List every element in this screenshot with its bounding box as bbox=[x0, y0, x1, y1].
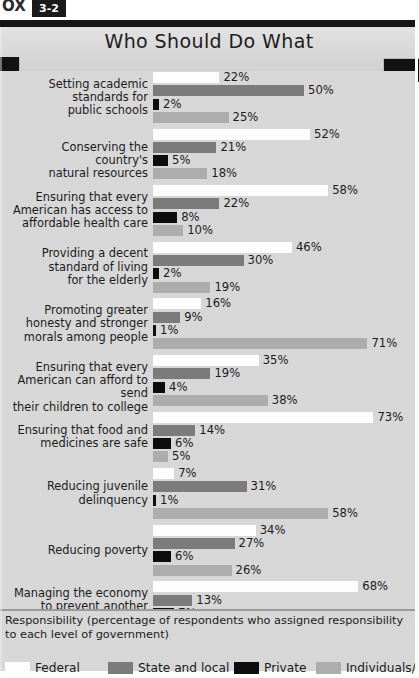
bar-row: 18% bbox=[153, 167, 418, 180]
bar-value-label: 73% bbox=[377, 410, 403, 424]
bar-value-label: 6% bbox=[175, 549, 193, 563]
bar-private bbox=[153, 551, 171, 562]
footer-divider bbox=[0, 609, 418, 611]
bar-state bbox=[153, 368, 210, 379]
bar-row: 7% bbox=[153, 467, 418, 480]
category-label-line: American has access to bbox=[6, 204, 148, 217]
category-label-line: honesty and stronger bbox=[6, 317, 148, 330]
category-label-line: morals among people bbox=[6, 331, 148, 344]
bar-row: 5% bbox=[153, 450, 418, 463]
category-label-line: Providing a decent bbox=[6, 247, 148, 260]
legend-swatch-private bbox=[234, 662, 259, 674]
legend-label: Private bbox=[264, 659, 307, 677]
chart-category-group: Reducing juveniledelinquency7%31%1%58% bbox=[0, 467, 418, 524]
bar-individuals bbox=[153, 282, 210, 293]
bar-row: 68% bbox=[153, 580, 418, 593]
bar-value-label: 27% bbox=[239, 536, 265, 550]
bar-value-label: 58% bbox=[332, 183, 358, 197]
bar-value-label: 52% bbox=[314, 127, 340, 141]
bar-federal bbox=[153, 185, 328, 196]
legend-label: State and local bbox=[138, 659, 229, 677]
bar-value-label: 6% bbox=[175, 436, 193, 450]
bar-value-label: 38% bbox=[272, 393, 298, 407]
bar-row: 10% bbox=[153, 224, 418, 237]
bar-private bbox=[153, 438, 171, 449]
bar-state bbox=[153, 312, 180, 323]
page-title: Who Should Do What bbox=[0, 30, 418, 52]
bar-row: 71% bbox=[153, 337, 418, 350]
axis-caption: Responsibility (percentage of respondent… bbox=[5, 614, 410, 642]
bar-row: 2% bbox=[153, 98, 418, 111]
bar-federal bbox=[153, 242, 292, 253]
bar-value-label: 2% bbox=[163, 97, 181, 111]
bar-individuals bbox=[153, 338, 367, 349]
bar-row: 30% bbox=[153, 254, 418, 267]
box-number-badge: 3-2 bbox=[32, 0, 66, 17]
bar-row: 4% bbox=[153, 381, 418, 394]
category-bars: 73%14%6%5% bbox=[153, 411, 418, 464]
category-label-line: Reducing poverty bbox=[6, 544, 148, 557]
category-bars: 7%31%1%58% bbox=[153, 467, 418, 520]
bar-row: 16% bbox=[153, 297, 418, 310]
category-bars: 22%50%2%25% bbox=[153, 71, 418, 124]
bar-row: 38% bbox=[153, 394, 418, 407]
bar-row: 6% bbox=[153, 550, 418, 563]
bar-state bbox=[153, 198, 219, 209]
bar-value-label: 21% bbox=[220, 140, 246, 154]
legend-swatch-state bbox=[108, 662, 133, 674]
category-label-line: standard of living bbox=[6, 261, 148, 274]
bar-row: 8% bbox=[153, 211, 418, 224]
category-label-line: public schools bbox=[6, 104, 148, 117]
bar-row: 19% bbox=[153, 281, 418, 294]
bar-row: 26% bbox=[153, 564, 418, 577]
bar-value-label: 58% bbox=[332, 506, 358, 520]
bar-value-label: 19% bbox=[214, 366, 240, 380]
bar-row: 25% bbox=[153, 111, 418, 124]
bar-federal bbox=[153, 72, 219, 83]
bar-value-label: 46% bbox=[296, 240, 322, 254]
bar-value-label: 9% bbox=[184, 310, 202, 324]
page-edge-left bbox=[0, 27, 2, 671]
bar-value-label: 31% bbox=[251, 479, 277, 493]
bar-value-label: 26% bbox=[236, 563, 262, 577]
bar-row: 9% bbox=[153, 311, 418, 324]
chart-category-group: Conserving the country'snatural resource… bbox=[0, 128, 418, 185]
bar-row: 46% bbox=[153, 241, 418, 254]
bar-row: 22% bbox=[153, 197, 418, 210]
legend-swatch-federal bbox=[5, 662, 30, 674]
bar-federal bbox=[153, 298, 201, 309]
bar-row: 52% bbox=[153, 128, 418, 141]
category-label-line: Reducing juvenile bbox=[6, 480, 148, 493]
category-label-line: Managing the economy bbox=[6, 587, 148, 600]
category-label-line: standards for bbox=[6, 91, 148, 104]
category-label: Ensuring that food andmedicines are safe bbox=[6, 424, 148, 451]
bar-value-label: 68% bbox=[362, 579, 388, 593]
category-label: Ensuring that everyAmerican has access t… bbox=[6, 191, 148, 231]
bar-chart-plot-area: Setting academicstandards forpublic scho… bbox=[0, 71, 418, 609]
bar-value-label: 13% bbox=[196, 593, 222, 607]
bar-value-label: 22% bbox=[223, 196, 249, 210]
bar-private bbox=[153, 382, 165, 393]
bar-row: 73% bbox=[153, 411, 418, 424]
bar-value-label: 7% bbox=[178, 466, 196, 480]
category-label: Providing a decentstandard of livingfor … bbox=[6, 247, 148, 287]
box-tab-strip: OX 3-2 bbox=[0, 0, 418, 20]
bar-row: 13% bbox=[153, 594, 418, 607]
bar-value-label: 25% bbox=[233, 110, 259, 124]
bar-individuals bbox=[153, 225, 183, 236]
category-label-line: Ensuring that food and bbox=[6, 424, 148, 437]
bar-value-label: 50% bbox=[308, 83, 334, 97]
bar-private bbox=[153, 155, 168, 166]
bar-individuals bbox=[153, 112, 229, 123]
chart-category-group: Setting academicstandards forpublic scho… bbox=[0, 71, 418, 128]
bar-row: 1% bbox=[153, 494, 418, 507]
bar-row: 22% bbox=[153, 71, 418, 84]
category-bars: 52%21%5%18% bbox=[153, 128, 418, 181]
category-label: Conserving the country'snatural resource… bbox=[6, 141, 148, 181]
bar-row: 34% bbox=[153, 524, 418, 537]
bar-private bbox=[153, 268, 159, 279]
chart-footer: Responsibility (percentage of respondent… bbox=[0, 609, 418, 671]
category-label-line: Ensuring that every bbox=[6, 191, 148, 204]
category-label-line: American can afford to send bbox=[6, 374, 148, 401]
